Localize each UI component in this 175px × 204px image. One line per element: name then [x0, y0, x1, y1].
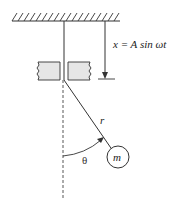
ceiling	[12, 13, 120, 21]
guide-block-left	[37, 62, 60, 80]
pendulum-string	[64, 80, 113, 151]
length-label: r	[100, 114, 105, 126]
displacement-arrow	[98, 21, 115, 79]
displacement-label: x = A sin ωt	[112, 38, 167, 50]
guide-block-right	[68, 62, 91, 80]
pendulum-diagram: x = A sin ωt r θ m	[0, 0, 175, 204]
mass-label: m	[113, 151, 121, 163]
angle-label: θ	[82, 154, 87, 166]
